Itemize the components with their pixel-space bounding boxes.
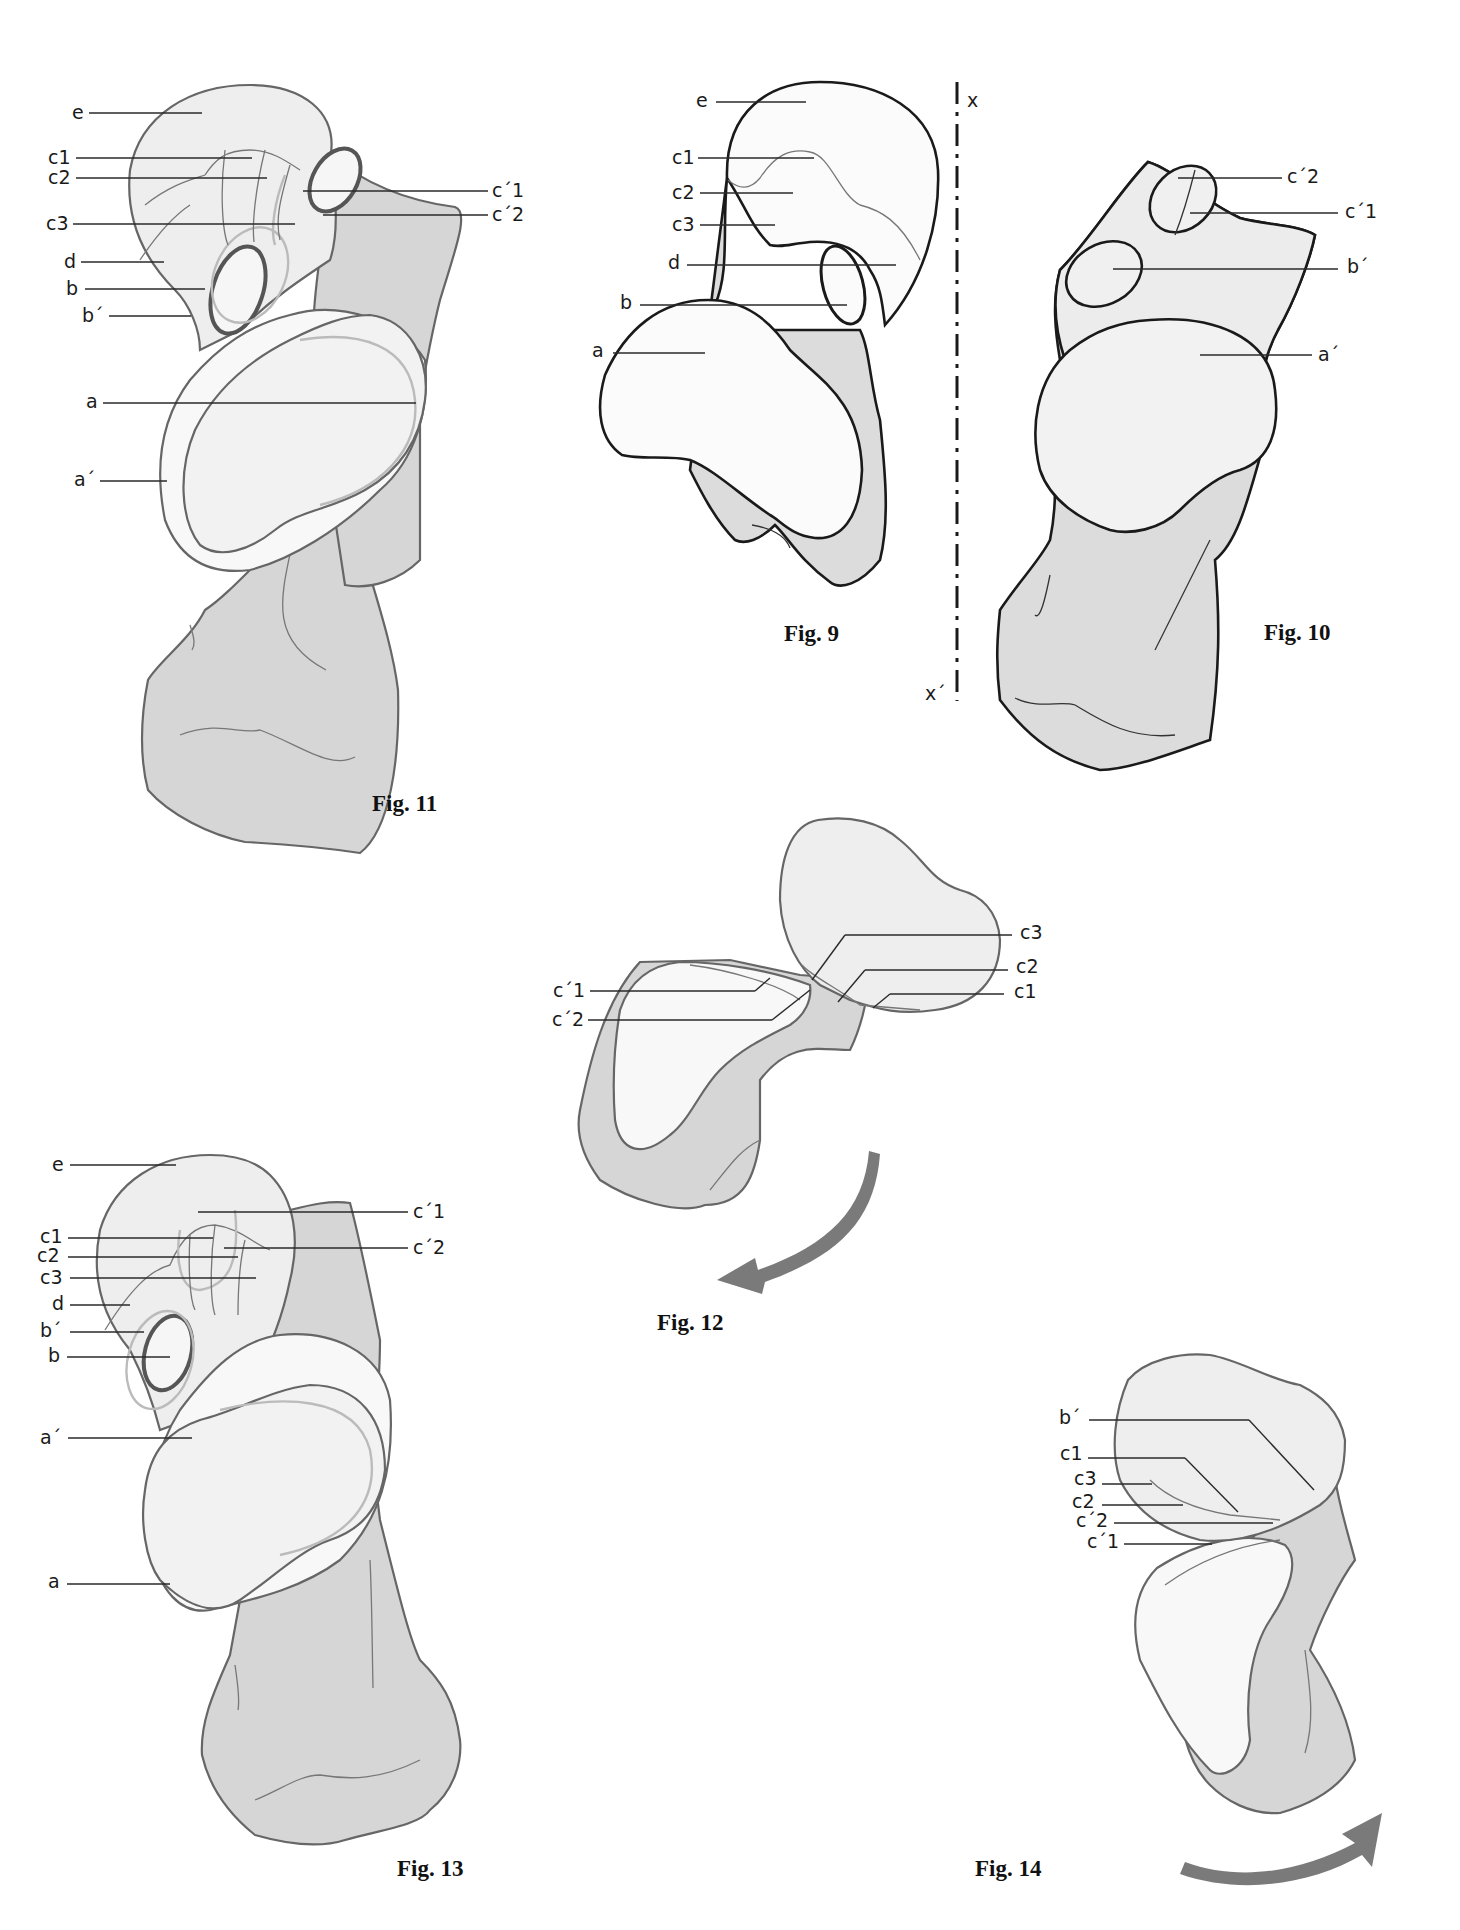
fig12-label-c3: c3 (1020, 921, 1043, 943)
fig13-label-c2p: c´2 (413, 1236, 445, 1258)
fig14-label-c1p: c´1 (1087, 1530, 1119, 1552)
fig9-caption: Fig. 9 (784, 621, 839, 646)
fig14-caption: Fig. 14 (975, 1856, 1042, 1881)
fig13-label-b: b (48, 1344, 60, 1366)
fig11-label-a: a (86, 390, 98, 412)
fig14-label-c2p: c´2 (1076, 1509, 1108, 1531)
fig13-label-a: a (48, 1570, 60, 1592)
figure-14: b´ c1 c3 c2 c´2 c´1 Fig. 14 (975, 1354, 1382, 1885)
fig12-label-c1p: c´1 (553, 979, 585, 1001)
fig12-label-c2p: c´2 (552, 1008, 584, 1030)
fig12-label-c2: c2 (1016, 955, 1039, 977)
fig12-label-c1: c1 (1014, 980, 1037, 1002)
fig9-label-c2: c2 (672, 181, 695, 203)
fig9-label-d: d (668, 251, 680, 273)
figure-10: c´2 c´1 b´ a´ Fig. 10 (997, 152, 1377, 770)
fig11-label-c1p: c´1 (492, 179, 524, 201)
fig12-caption: Fig. 12 (657, 1310, 723, 1335)
fig11-label-c2p: c´2 (492, 203, 524, 225)
fig10-label-c1p: c´1 (1345, 200, 1377, 222)
fig13-label-d: d (52, 1292, 64, 1314)
figure-12: c´1 c´2 c3 c2 c1 Fig. 12 (552, 818, 1043, 1335)
fig13-label-c2: c2 (37, 1244, 60, 1266)
axis-label-xprime: x´ (925, 682, 946, 704)
figure-11: e c1 c2 c3 d b b´ a a´ c´1 c´2 Fig. 11 (46, 85, 524, 853)
fig9-label-c3: c3 (672, 213, 695, 235)
fig13-label-bp: b´ (40, 1319, 62, 1341)
fig9-label-b: b (620, 291, 632, 313)
fig11-caption: Fig. 11 (372, 791, 437, 816)
fig13-caption: Fig. 13 (397, 1856, 463, 1881)
fig11-label-c3: c3 (46, 212, 69, 234)
fig11-label-bp: b´ (82, 304, 104, 326)
fig11-label-ap: a´ (74, 468, 95, 490)
figure-9: e c1 c2 c3 d b a Fig. 9 (592, 82, 938, 646)
axis-label-x: x (967, 89, 978, 111)
fig13-label-ap: a´ (40, 1426, 61, 1448)
anatomical-plate: e c1 c2 c3 d b b´ a a´ c´1 c´2 Fig. 11 (0, 0, 1460, 1930)
fig9-label-c1: c1 (672, 146, 695, 168)
fig13-label-e: e (52, 1153, 64, 1175)
figure-13: e c´1 c1 c´2 c2 c3 d b´ b a´ a Fig. 13 (37, 1153, 463, 1881)
fig10-label-bp: b´ (1347, 255, 1369, 277)
fig11-label-b: b (66, 277, 78, 299)
fig10-label-ap: a´ (1318, 343, 1339, 365)
fig10-caption: Fig. 10 (1264, 620, 1330, 645)
fig9-label-a: a (592, 339, 604, 361)
fig14-label-c1: c1 (1060, 1442, 1083, 1464)
fig14-label-bp: b´ (1059, 1406, 1081, 1428)
fig13-label-c1p: c´1 (413, 1200, 445, 1222)
fig11-label-e: e (72, 101, 84, 123)
fig11-label-c1: c1 (48, 146, 71, 168)
fig13-label-c3: c3 (40, 1266, 63, 1288)
rotation-arrow-clockwise-icon (1180, 1813, 1382, 1885)
fig11-label-c2: c2 (48, 166, 71, 188)
fig9-label-e: e (696, 89, 708, 111)
fig10-label-c2p: c´2 (1287, 165, 1319, 187)
fig14-label-c3: c3 (1074, 1467, 1097, 1489)
fig11-label-d: d (64, 250, 76, 272)
